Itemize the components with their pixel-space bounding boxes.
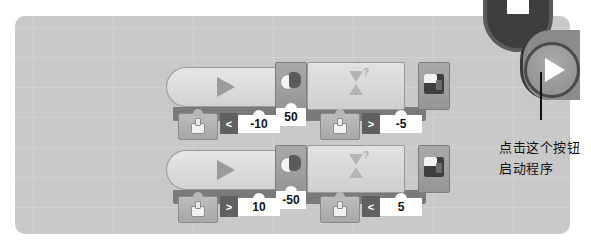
motor-icon (280, 155, 302, 173)
threshold-value[interactable]: 10 (238, 198, 280, 216)
motor-power-value[interactable]: 50 (276, 108, 306, 126)
start-block[interactable] (166, 67, 276, 107)
brick-icon (424, 74, 444, 94)
brick-block[interactable] (418, 62, 450, 110)
compare-operator[interactable]: > (362, 113, 380, 134)
sensor-icon (331, 203, 349, 217)
programming-canvas: < -10 50 ? > -5 (15, 16, 570, 234)
annotation-line-1: 点击这个按钮 (499, 137, 580, 156)
brick-icon (424, 157, 444, 177)
stop-icon (507, 0, 529, 14)
wait-threshold-value[interactable]: -5 (380, 115, 422, 133)
brick-block[interactable] (418, 145, 450, 193)
annotation-line-2: 启动程序 (499, 158, 553, 177)
play-triangle-icon (217, 77, 235, 97)
wait-sensor-tab[interactable] (320, 113, 360, 140)
compare-operator[interactable]: < (220, 113, 238, 134)
sensor-condition-tab[interactable] (178, 113, 218, 140)
wait-block[interactable]: ? (307, 62, 405, 110)
wait-block[interactable]: ? (307, 145, 405, 193)
sensor-icon (331, 120, 349, 134)
run-program-button[interactable] (524, 42, 580, 98)
play-icon (545, 58, 565, 82)
annotation-pointer-line (540, 72, 542, 120)
sensor-condition-tab[interactable] (178, 196, 218, 223)
play-triangle-icon (217, 160, 235, 180)
start-block[interactable] (166, 150, 276, 190)
hourglass-question-icon: ? (349, 154, 363, 178)
wait-threshold-value[interactable]: 5 (380, 198, 422, 216)
compare-operator[interactable]: > (220, 196, 238, 217)
hourglass-question-icon: ? (349, 71, 363, 95)
motor-power-value[interactable]: -50 (276, 191, 306, 209)
wait-sensor-tab[interactable] (320, 196, 360, 223)
threshold-value[interactable]: -10 (238, 115, 280, 133)
motor-icon (280, 72, 302, 90)
sensor-icon (189, 120, 207, 134)
compare-operator[interactable]: < (362, 196, 380, 217)
sensor-icon (189, 203, 207, 217)
